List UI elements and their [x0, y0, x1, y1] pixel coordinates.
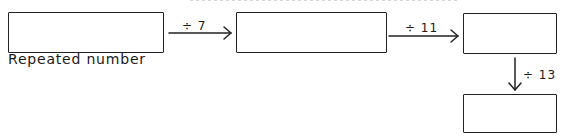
- arrow-down-icon: [509, 58, 521, 90]
- divide-by-13-label: ÷ 13: [523, 68, 556, 82]
- arrows-layer: [0, 0, 565, 136]
- divide-by-11-label: ÷ 11: [405, 21, 438, 35]
- divide-by-7-label: ÷ 7: [182, 19, 207, 33]
